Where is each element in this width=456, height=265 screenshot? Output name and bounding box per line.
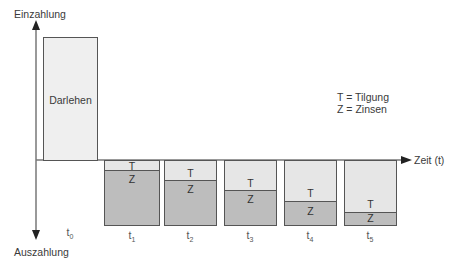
arrow-right-icon: [401, 156, 412, 164]
period-label-t4: t4: [295, 229, 325, 243]
period-label-t1: t1: [117, 229, 147, 243]
legend-tilgung: T = Tilgung: [337, 91, 389, 103]
legend-zinsen: Z = Zinsen: [337, 103, 387, 115]
period-label-t2: t2: [175, 229, 205, 243]
y-axis-top-label: Einzahlung: [14, 8, 66, 20]
period-label-t3: t3: [235, 229, 265, 243]
y-axis-bottom-label: Auszahlung: [14, 246, 69, 258]
period-bar-t2: T Z: [164, 160, 217, 226]
x-axis-label: Zeit (t): [414, 154, 444, 166]
period-bar-t1: T Z: [104, 160, 160, 226]
period-label-t0: t0: [55, 226, 85, 240]
period-label-t5: t5: [355, 229, 385, 243]
arrow-up-icon: [32, 20, 40, 30]
arrow-down-icon: [32, 230, 40, 240]
period-bar-t3: T Z: [224, 160, 277, 226]
loan-box: Darlehen: [43, 37, 98, 161]
period-bar-t5: T Z: [344, 160, 397, 226]
period-bar-t4: T Z: [284, 160, 337, 226]
loan-label: Darlehen: [44, 94, 97, 106]
